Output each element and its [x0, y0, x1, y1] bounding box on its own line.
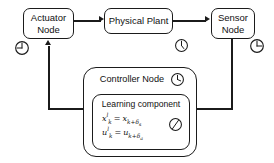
node-sensor-label: Sensor Node — [216, 12, 250, 34]
diagram-canvas: Actuator Node Physical Plant Sensor Node… — [0, 0, 274, 163]
clock-icon-learning-component — [168, 117, 183, 132]
formula-input-equals: = — [112, 128, 123, 137]
formula-state-equals: = — [112, 114, 123, 123]
formula-state-rhs-delta-sub: s — [139, 122, 141, 127]
clock-icon-sensor — [249, 38, 265, 54]
formula-state-rhs-sub: k+δs — [127, 119, 141, 125]
wire-plant-to-sensor — [173, 20, 206, 22]
formula-state-lhs-sup: l — [107, 112, 109, 118]
node-sensor[interactable]: Sensor Node — [211, 8, 255, 39]
wire-learning-to-left — [48, 108, 85, 110]
node-controller[interactable]: Controller Node Learning component xlk=x… — [83, 67, 197, 157]
formula-input-prediction: ulk=uk+δa — [102, 128, 143, 139]
wire-riser-to-actuator — [48, 46, 50, 48]
formula-input-rhs-sub: k+δa — [128, 133, 143, 139]
wire-sensor-down — [231, 39, 233, 109]
node-learning-component[interactable]: Learning component xlk=xk+δs ulk=uk+δa — [92, 94, 190, 150]
arrowhead-sensor-input — [205, 16, 210, 22]
clock-icon-actuator — [14, 40, 30, 56]
formula-input-lhs-sup: l — [107, 126, 109, 132]
node-actuator[interactable]: Actuator Node — [23, 8, 74, 39]
node-controller-label: Controller Node — [100, 74, 180, 84]
formula-state-prediction: xlk=xk+δs — [102, 114, 141, 125]
node-actuator-label: Actuator Node — [29, 12, 68, 34]
wire-left-riser — [48, 46, 50, 110]
formula-input-rhs-sub-text: k+ — [128, 133, 136, 139]
clock-icon-physical-plant — [174, 38, 189, 53]
formula-input-rhs-delta-sub: a — [140, 136, 143, 141]
arrowhead-actuator-input — [45, 40, 51, 45]
node-physical-plant-label: Physical Plant — [107, 15, 171, 26]
node-physical-plant[interactable]: Physical Plant — [104, 8, 173, 34]
clock-icon-controller — [170, 72, 185, 87]
node-learning-component-label: Learning component — [93, 99, 189, 109]
wire-actuator-to-plant — [74, 20, 101, 22]
wire-sensor-to-learning — [196, 108, 233, 110]
